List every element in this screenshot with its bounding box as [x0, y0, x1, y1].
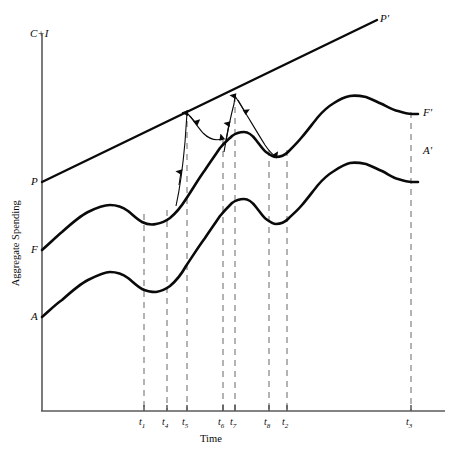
x-tick-label-subscript: 6 [221, 422, 225, 430]
x-tick-label-t3: t3 [406, 417, 412, 430]
series-line-P [42, 20, 377, 182]
chart-canvas [0, 0, 451, 458]
x-tick-label-t4: t4 [162, 417, 168, 430]
y-axis-top-label: C+I [30, 28, 48, 39]
y-axis-title: Aggregate Spending [11, 183, 22, 303]
x-tick-label-t2: t2 [282, 417, 288, 430]
aggregate-spending-chart: C+I Aggregate Spending Time P F A P' F' … [0, 0, 451, 458]
x-tick-label-subscript: 7 [233, 422, 237, 430]
x-tick-label-subscript: 8 [267, 422, 271, 430]
x-tick-label-subscript: 5 [185, 422, 189, 430]
series-start-label-A: A [31, 311, 38, 322]
first-upward-adjustment-arrow-icon [176, 113, 187, 206]
x-tick-label-subscript: 2 [285, 422, 289, 430]
series-end-label-A-prime: A' [423, 145, 432, 156]
x-tick-label-t7: t7 [230, 417, 236, 430]
series-start-label-P: P [31, 176, 38, 187]
first-downward-adjustment-arrow-mid-head [190, 116, 196, 123]
second-upward-adjustment-arrow-icon [224, 96, 235, 152]
x-tick-label-subscript: 1 [142, 422, 146, 430]
dashed-guides-group [144, 96, 411, 411]
x-tick-label-subscript: 4 [165, 422, 169, 430]
series-curve-A [42, 163, 418, 317]
series-end-label-P-prime: P' [380, 13, 389, 24]
x-axis-ticks-group [144, 405, 411, 411]
axes-group [41, 34, 445, 411]
x-tick-label-t1: t1 [139, 417, 145, 430]
second-downward-adjustment-arrow-mid-head [238, 100, 245, 112]
x-tick-label-t5: t5 [182, 417, 188, 430]
x-axis-title: Time [200, 434, 222, 445]
series-end-label-F-prime: F' [423, 107, 432, 118]
x-tick-label-t8: t8 [264, 417, 270, 430]
series-start-label-F: F [31, 244, 38, 255]
x-tick-label-subscript: 3 [409, 422, 413, 430]
x-tick-label-t6: t6 [218, 417, 224, 430]
first-downward-adjustment-arrow-icon [187, 113, 222, 140]
